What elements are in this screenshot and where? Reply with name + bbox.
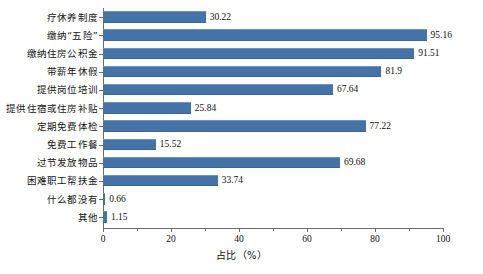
bar[interactable] [103,84,333,95]
bar-fill [103,11,206,22]
bar-track: 77.22 [103,117,443,135]
bar-row: 过节发放物品69.68 [0,154,483,172]
value-label: 25.84 [195,102,216,114]
bar[interactable] [103,175,218,186]
bar-track: 25.84 [103,99,443,117]
figure-caption [0,266,483,274]
x-tick-label: 20 [166,234,176,245]
bar-row: 困难职工帮扶金33.74 [0,172,483,190]
bar-chart: 疗休养制度30.22缴纳“五险”95.16缴纳住房公积金91.51带薪年休假81… [0,0,483,274]
bar[interactable] [103,48,414,59]
value-label: 95.16 [431,29,452,41]
bar-track: 67.64 [103,81,443,99]
category-label: 提供住宿或住房补贴 [0,103,98,114]
category-label: 带薪年休假 [0,66,98,77]
bar[interactable] [103,193,105,204]
bar-track: 33.74 [103,172,443,190]
value-label: 77.22 [370,120,391,132]
y-axis-tick [99,54,103,55]
x-tick-label: 40 [234,234,244,245]
bar-track: 91.51 [103,44,443,62]
bar-row: 疗休养制度30.22 [0,8,483,26]
value-label: 30.22 [210,11,231,23]
bar[interactable] [103,139,156,150]
bar-fill [103,48,414,59]
bar-track: 95.16 [103,26,443,44]
y-axis-tick [99,17,103,18]
value-label: 91.51 [418,47,439,59]
value-label: 0.66 [109,193,126,205]
x-tick-major [239,228,240,232]
y-axis-tick [99,145,103,146]
x-tick-minor [341,228,342,231]
y-axis-tick [99,108,103,109]
bar-track: 81.9 [103,63,443,81]
bar-row: 提供岗位培训67.64 [0,81,483,99]
x-tick-major [103,228,104,232]
x-tick-minor [137,228,138,231]
bar[interactable] [103,29,427,40]
bar-row: 定期免费体检77.22 [0,117,483,135]
bar-row: 提供住宿或住房补贴25.84 [0,99,483,117]
y-axis-tick [99,163,103,164]
category-label: 什么都没有 [0,194,98,205]
bar-track: 0.66 [103,190,443,208]
category-label: 提供岗位培训 [0,84,98,95]
value-label: 67.64 [337,83,358,95]
x-tick-major [307,228,308,232]
bar-fill [103,84,333,95]
category-label: 过节发放物品 [0,157,98,168]
bar-row: 免费工作餐15.52 [0,135,483,153]
x-tick-label: 100 [436,234,450,245]
bar-fill [103,139,156,150]
bar-fill [103,120,366,131]
bar[interactable] [103,120,366,131]
bar-track: 30.22 [103,8,443,26]
category-label: 缴纳住房公积金 [0,48,98,59]
x-tick-label: 0 [101,234,106,245]
bar-track: 69.68 [103,154,443,172]
value-label: 1.15 [111,211,128,223]
x-tick-minor [205,228,206,231]
category-label: 疗休养制度 [0,12,98,23]
x-tick-label: 80 [370,234,380,245]
bar-fill [103,157,340,168]
category-label: 免费工作餐 [0,139,98,150]
x-tick-minor [273,228,274,231]
x-tick-label: 60 [302,234,312,245]
y-axis-tick [99,217,103,218]
bar[interactable] [103,102,191,113]
category-label: 缴纳“五险” [0,30,98,41]
value-label: 81.9 [385,65,402,77]
bar-row: 缴纳“五险”95.16 [0,26,483,44]
y-axis-tick [99,90,103,91]
category-label: 定期免费体检 [0,121,98,132]
bar-row: 带薪年休假81.9 [0,63,483,81]
y-axis-tick [99,35,103,36]
bar-fill [103,66,381,77]
bar-fill [103,193,105,204]
category-label: 其他 [0,212,98,223]
bar-row: 什么都没有0.66 [0,190,483,208]
y-axis-tick [99,126,103,127]
x-axis-title: 占比（%） [0,250,483,262]
bar-track: 1.15 [103,208,443,226]
bar[interactable] [103,157,340,168]
bar-fill [103,175,218,186]
category-label: 困难职工帮扶金 [0,175,98,186]
bar-fill [103,211,107,222]
x-tick-major [375,228,376,232]
bar-track: 15.52 [103,135,443,153]
bar-row: 其他1.15 [0,208,483,226]
value-label: 69.68 [344,156,365,168]
bar-row: 缴纳住房公积金91.51 [0,44,483,62]
bar[interactable] [103,211,107,222]
value-label: 33.74 [222,174,243,186]
bar[interactable] [103,66,381,77]
y-axis-tick [99,181,103,182]
x-tick-major [443,228,444,232]
bar[interactable] [103,11,206,22]
x-tick-minor [409,228,410,231]
x-tick-major [171,228,172,232]
y-axis-tick [99,199,103,200]
